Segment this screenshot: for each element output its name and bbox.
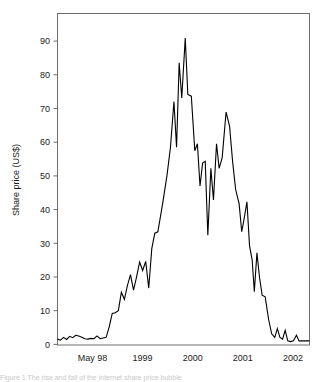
y-tick-group-60: 60 [40,137,58,147]
y-tick-label-70: 70 [40,104,50,114]
y-tick-group-0: 0 [45,340,58,350]
y-tick-group-20: 20 [40,272,58,282]
y-tick-group-50: 50 [40,171,58,181]
y-tick-label-0: 0 [45,340,50,350]
y-tick-group-90: 90 [40,36,58,46]
y-tick-label-60: 60 [40,137,50,147]
y-tick-group-40: 40 [40,205,58,215]
share-price-line-chart: 90 80 70 60 50 40 [0,0,323,382]
y-tick-label-90: 90 [40,36,50,46]
y-tick-label-20: 20 [40,272,50,282]
y-tick-label-30: 30 [40,239,50,249]
y-axis: 90 80 70 60 50 40 [40,36,58,349]
figure-container: 90 80 70 60 50 40 [0,0,323,382]
x-axis: May 98 1999 2000 2001 2002 [78,353,303,363]
y-tick-label-40: 40 [40,205,50,215]
y-tick-group-70: 70 [40,104,58,114]
x-tick-label-2002: 2002 [283,353,303,363]
y-tick-group-30: 30 [40,239,58,249]
x-tick-label-may-98: May 98 [78,353,108,363]
y-tick-label-80: 80 [40,70,50,80]
y-tick-label-10: 10 [40,306,50,316]
x-tick-label-1999: 1999 [133,353,153,363]
y-tick-label-50: 50 [40,171,50,181]
x-tick-label-2000: 2000 [183,353,203,363]
y-tick-group-10: 10 [40,306,58,316]
x-tick-label-2001: 2001 [233,353,253,363]
y-axis-title: Share price (US$) [11,144,21,216]
y-tick-group-80: 80 [40,70,58,80]
figure-caption-fragment: Figure 1 The rise and fall of the intern… [0,374,323,382]
